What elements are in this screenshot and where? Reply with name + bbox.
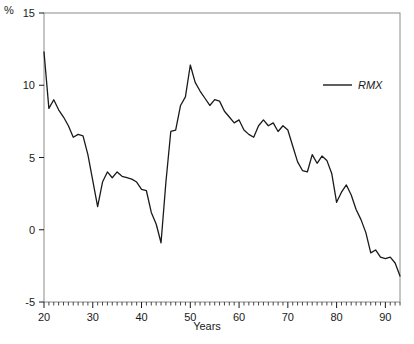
x-tick-label: 80 [330,311,342,323]
x-tick-label: 40 [135,311,147,323]
x-axis-title: Years [193,320,221,332]
y-tick-label: 10 [23,79,35,91]
y-tick-label: -5 [25,296,35,308]
y-tick-label: 0 [29,224,35,236]
y-axis-unit-label: % [4,4,14,16]
y-tick-label: 5 [29,152,35,164]
legend-label-rmx: RMX [358,79,383,91]
plot-frame [44,13,400,302]
x-tick-label: 90 [379,311,391,323]
x-tick-label: 60 [233,311,245,323]
chart-figure: % -5051015 2030405060708090 RMX Years [0,0,414,344]
y-axis-ticks: -5051015 [23,7,44,308]
x-tick-label: 30 [87,311,99,323]
x-axis-minor-ticks [49,302,400,306]
line-chart: % -5051015 2030405060708090 RMX Years [0,0,414,344]
x-tick-label: 20 [38,311,50,323]
y-tick-label: 15 [23,7,35,19]
x-tick-label: 70 [282,311,294,323]
